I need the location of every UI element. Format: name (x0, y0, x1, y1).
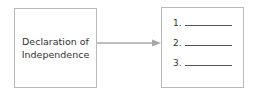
blank-line (185, 44, 232, 46)
blank-line (185, 64, 232, 66)
list-box: 1. 2. 3. (161, 7, 244, 88)
source-label-line1: Declaration of (22, 36, 89, 47)
list-item-1: 1. (173, 18, 232, 28)
list-number: 2. (173, 38, 182, 48)
source-label-line2: Independence (22, 49, 90, 60)
source-label: Declaration ofIndependence (22, 35, 90, 61)
source-box: Declaration ofIndependence (14, 8, 97, 88)
arrow-right-icon (97, 38, 161, 48)
blank-line (185, 24, 232, 26)
list-number: 1. (173, 18, 182, 28)
list-item-2: 2. (173, 38, 232, 48)
list-item-3: 3. (173, 58, 232, 68)
list-number: 3. (173, 58, 182, 68)
